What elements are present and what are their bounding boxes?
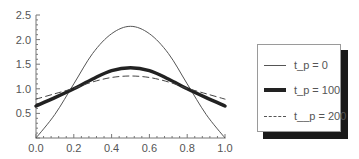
y-tick-label: 2.5: [16, 9, 31, 21]
legend-label: t__p = 200: [294, 110, 346, 122]
y-tick-label: 0.5: [16, 107, 31, 119]
dashed-line-swatch-icon: [264, 116, 286, 117]
y-tick-label: 1.5: [16, 58, 31, 70]
x-tick-label: 0.8: [180, 142, 195, 154]
legend-item-tp100: t_p = 100: [264, 83, 340, 97]
curve-series-0: [36, 26, 225, 138]
legend-item-tp200: t__p = 200: [264, 109, 346, 123]
plot-curves: [36, 26, 225, 138]
x-tick-label: 0.4: [104, 142, 119, 154]
legend-item-tp0: t_p = 0: [264, 58, 328, 72]
thick-line-swatch-icon: [264, 88, 286, 92]
axes: 0.00.20.40.60.81.00.51.01.52.02.5: [16, 9, 233, 154]
legend-label: t_p = 100: [294, 84, 340, 96]
thin-line-swatch-icon: [264, 65, 286, 66]
x-tick-label: 0.2: [66, 142, 81, 154]
y-tick-label: 2.0: [16, 34, 31, 46]
legend: t_p = 0 t_p = 100 t__p = 200: [257, 44, 341, 132]
x-tick-label: 0.0: [28, 142, 43, 154]
x-tick-label: 0.6: [142, 142, 157, 154]
x-tick-label: 1.0: [217, 142, 232, 154]
legend-label: t_p = 0: [294, 59, 328, 71]
curve-series-2: [36, 76, 225, 99]
y-tick-label: 1.0: [16, 83, 31, 95]
